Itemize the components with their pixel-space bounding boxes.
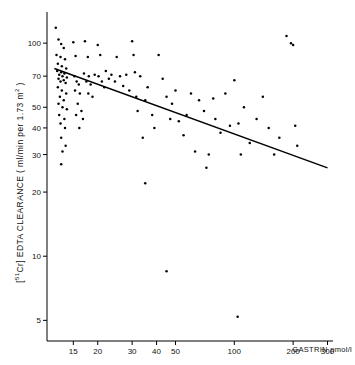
data-point — [136, 110, 139, 113]
data-point — [65, 92, 68, 95]
data-point — [63, 99, 66, 102]
data-point — [212, 97, 215, 100]
data-point — [153, 127, 156, 129]
data-point — [278, 136, 281, 139]
x-tick-label: 15 — [69, 347, 78, 356]
data-point — [290, 42, 293, 45]
data-point — [114, 80, 117, 83]
regression-line — [54, 69, 327, 168]
data-point — [87, 92, 90, 95]
data-point — [60, 163, 63, 166]
data-point — [64, 82, 67, 85]
data-point — [58, 114, 61, 117]
data-point — [169, 118, 172, 121]
data-point — [57, 78, 60, 81]
x-tick-label: 40 — [152, 347, 161, 356]
data-point — [203, 110, 206, 113]
data-point — [96, 44, 99, 47]
data-point — [285, 35, 288, 38]
data-point — [55, 27, 58, 30]
data-point — [236, 315, 239, 318]
data-point — [249, 142, 252, 145]
data-point — [78, 83, 81, 86]
data-point — [122, 85, 125, 88]
data-point — [108, 78, 111, 81]
data-point — [89, 83, 92, 86]
data-point — [61, 65, 64, 68]
y-tick-label: 50 — [32, 103, 41, 112]
data-point — [57, 102, 60, 105]
data-point — [64, 144, 67, 147]
data-point — [74, 89, 77, 92]
y-tick-label: 5 — [37, 316, 42, 325]
data-point — [91, 96, 94, 99]
data-point — [59, 96, 62, 99]
y-axis-title: [51Cr] EDTA CLEARANCE ( ml/min per 1.73 … — [14, 0, 28, 365]
data-point — [60, 136, 63, 139]
data-point — [255, 118, 258, 121]
data-point — [101, 80, 104, 83]
data-point — [294, 124, 297, 127]
data-point — [80, 110, 83, 113]
data-point — [61, 89, 64, 92]
data-point — [182, 134, 185, 137]
x-axis-title: GASTRIN pmol/l — [292, 345, 352, 354]
data-point — [66, 108, 69, 111]
data-point — [134, 71, 137, 74]
data-point — [273, 153, 276, 156]
data-point — [292, 44, 295, 47]
data-point — [75, 114, 78, 117]
data-point — [208, 153, 211, 156]
data-point — [198, 99, 201, 102]
y-tick-label: 10 — [32, 252, 41, 261]
chart-figure: 51020304050701001520304050100200300 [51C… — [0, 0, 355, 365]
data-point — [59, 122, 62, 125]
data-point — [115, 56, 118, 59]
data-point — [76, 102, 79, 105]
data-point — [262, 96, 265, 99]
y-axis-title-text: [51Cr] EDTA CLEARANCE ( ml/min per 1.73 … — [15, 82, 25, 282]
data-point — [61, 106, 64, 109]
data-point — [190, 92, 193, 95]
data-point — [240, 153, 243, 156]
data-point — [66, 76, 69, 79]
data-point — [119, 75, 122, 78]
data-point — [165, 270, 168, 273]
data-point — [128, 89, 131, 92]
data-point — [243, 106, 246, 109]
data-point — [57, 86, 60, 89]
data-point — [99, 54, 102, 57]
data-point — [88, 75, 91, 78]
data-point — [63, 79, 66, 82]
data-point — [93, 74, 96, 77]
data-point — [142, 136, 145, 139]
data-point — [144, 182, 147, 185]
data-point — [84, 40, 87, 43]
data-point — [97, 75, 100, 78]
data-point — [82, 118, 85, 121]
data-point — [63, 47, 66, 50]
data-point — [61, 150, 64, 153]
y-tick-label: 100 — [28, 39, 42, 48]
data-point — [55, 54, 58, 57]
data-point — [110, 74, 113, 77]
data-point — [171, 102, 174, 105]
y-tick-label: 70 — [32, 72, 41, 81]
data-point — [75, 80, 78, 83]
data-point — [205, 167, 208, 170]
data-point — [78, 127, 81, 129]
data-point — [57, 63, 60, 66]
data-point — [296, 144, 299, 147]
data-point — [57, 38, 60, 41]
data-point — [165, 96, 168, 99]
y-tick-label: 20 — [32, 188, 41, 197]
data-point — [157, 54, 160, 57]
data-point — [233, 79, 236, 82]
data-point — [83, 72, 86, 75]
data-point — [61, 75, 64, 78]
data-point — [132, 54, 135, 57]
data-point — [161, 78, 164, 81]
scatter-plot: 51020304050701001520304050100200300 — [0, 0, 355, 365]
data-point — [219, 131, 222, 134]
data-point — [74, 55, 77, 58]
